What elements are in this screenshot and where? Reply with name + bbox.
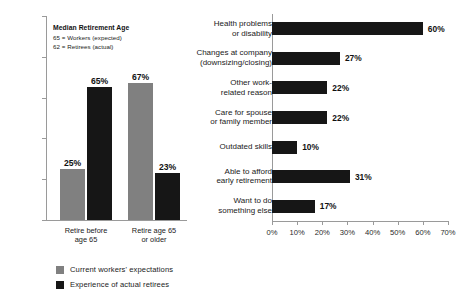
- category-label-line: age 65: [47, 235, 125, 244]
- right-chart-plot-area: [272, 14, 448, 220]
- right-chart-x-tick: [297, 221, 298, 225]
- right-chart-x-tick: [322, 221, 323, 225]
- category-label-line: Other work-: [166, 78, 272, 88]
- category-label-line: or family member: [166, 118, 272, 128]
- right-chart-bar-value: 60%: [428, 24, 445, 34]
- left-chart-category-label: Retire age 65or older: [115, 226, 193, 245]
- category-label-line: related reason: [166, 88, 272, 98]
- right-chart-bar: [272, 52, 340, 65]
- category-label-line: or older: [115, 235, 193, 244]
- legend-label: Current workers' expectations: [70, 265, 173, 274]
- category-label-line: something else: [166, 206, 272, 216]
- right-chart-bar: [272, 141, 297, 154]
- right-chart-x-tick: [423, 221, 424, 225]
- legend-label: Experience of actual retirees: [70, 280, 169, 289]
- right-chart-bar: [272, 170, 350, 183]
- right-chart-x-tick: [448, 221, 449, 225]
- category-label-line: early retirement: [166, 177, 272, 187]
- right-chart-bar-value: 10%: [302, 142, 319, 152]
- annotation-line-workers: 65 = Workers (expected): [53, 33, 149, 42]
- legend-swatch: [56, 266, 64, 274]
- left-chart-category-label: Retire beforeage 65: [47, 226, 125, 245]
- right-chart-bar: [272, 81, 327, 94]
- left-chart-y-tick: [42, 220, 46, 221]
- left-chart-bar: [60, 169, 85, 220]
- category-label-line: Care for spouse: [166, 108, 272, 118]
- left-chart-bar-value: 25%: [53, 158, 93, 168]
- horizontal-bar-chart: 0%10%20%30%40%50%60%70% 60%27%22%22%10%3…: [186, 0, 454, 303]
- category-label-line: Changes at company: [166, 49, 272, 59]
- category-label-line: Retire before: [47, 226, 125, 235]
- right-chart-x-tick-label: 70%: [433, 228, 460, 237]
- category-label-line: Want to do: [166, 196, 272, 206]
- right-chart-bar-value: 31%: [355, 172, 372, 182]
- left-chart-bar-value: 65%: [80, 76, 120, 86]
- right-chart-x-tick: [272, 221, 273, 225]
- left-chart-x-axis: [46, 220, 187, 221]
- legend-item: Current workers' expectations: [56, 262, 173, 277]
- right-chart-category-label: Care for spouseor family member: [166, 108, 272, 128]
- right-chart-category-label: Want to dosomething else: [166, 196, 272, 216]
- right-chart-x-tick: [347, 221, 348, 225]
- category-label-line: or disability: [166, 29, 272, 39]
- annotation-title: Median Retirement Age: [53, 23, 149, 33]
- left-chart-bar: [87, 87, 112, 220]
- right-chart-bar-value: 27%: [345, 53, 362, 63]
- right-chart-category-label: Changes at company(downsizing/closing): [166, 49, 272, 69]
- legend-swatch: [56, 281, 64, 289]
- right-chart-bar: [272, 111, 327, 124]
- right-chart-bar-value: 22%: [332, 113, 349, 123]
- right-chart-x-tick: [398, 221, 399, 225]
- right-chart-category-label: Health problemsor disability: [166, 19, 272, 39]
- annotation-line-retirees: 62 = Retirees (actual): [53, 42, 149, 51]
- right-chart-category-label: Able to affordearly retirement: [166, 167, 272, 187]
- right-chart-bar-value: 22%: [332, 83, 349, 93]
- category-label-line: Outdated skills: [166, 142, 272, 152]
- category-label-line: Retire age 65: [115, 226, 193, 235]
- right-chart-x-tick: [373, 221, 374, 225]
- legend: Current workers' expectationsExperience …: [56, 262, 173, 292]
- right-chart-category-label: Other work-related reason: [166, 78, 272, 98]
- median-retirement-age-annotation: Median Retirement Age 65 = Workers (expe…: [53, 23, 149, 51]
- left-chart-bar: [128, 83, 153, 220]
- right-chart-category-label: Outdated skills: [166, 142, 272, 152]
- legend-item: Experience of actual retirees: [56, 277, 173, 292]
- category-label-line: Able to afford: [166, 167, 272, 177]
- right-chart-bar-value: 17%: [320, 201, 337, 211]
- left-chart-bar-value: 67%: [121, 72, 161, 82]
- right-chart-bar: [272, 22, 423, 35]
- right-chart-bar: [272, 200, 315, 213]
- category-label-line: Health problems: [166, 19, 272, 29]
- category-label-line: (downsizing/closing): [166, 58, 272, 68]
